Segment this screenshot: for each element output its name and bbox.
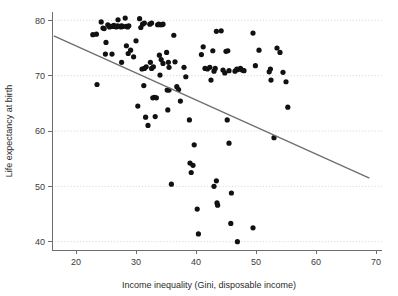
data-point bbox=[268, 77, 273, 82]
x-axis-title: Income inequality (Gini, disposable inco… bbox=[122, 280, 296, 290]
data-point bbox=[280, 70, 285, 75]
data-point bbox=[250, 30, 255, 35]
data-point bbox=[285, 105, 290, 110]
data-point bbox=[145, 123, 150, 128]
data-point bbox=[225, 48, 230, 53]
data-point bbox=[250, 225, 255, 230]
data-point bbox=[148, 60, 153, 65]
data-point bbox=[277, 50, 282, 55]
data-point bbox=[157, 73, 162, 78]
data-point bbox=[183, 74, 188, 79]
data-point bbox=[211, 184, 216, 189]
data-point bbox=[160, 61, 165, 66]
data-point bbox=[151, 64, 156, 69]
data-point bbox=[228, 221, 233, 226]
regression-line bbox=[54, 36, 370, 178]
data-point bbox=[109, 51, 114, 56]
y-tick-label-80: 80 bbox=[35, 16, 45, 26]
data-point bbox=[274, 45, 279, 50]
y-tick-label-50: 50 bbox=[35, 182, 45, 192]
data-point bbox=[144, 64, 149, 69]
y-tick-label-70: 70 bbox=[35, 71, 45, 81]
data-point bbox=[208, 77, 213, 82]
data-point bbox=[172, 59, 177, 64]
data-point bbox=[213, 66, 218, 71]
data-points bbox=[90, 15, 290, 244]
y-tick-label-60: 60 bbox=[35, 126, 45, 136]
data-point bbox=[123, 15, 128, 20]
data-point bbox=[154, 95, 159, 100]
y-axis-title: Life expectancy at birth bbox=[4, 85, 14, 178]
x-tick-label-70: 70 bbox=[371, 257, 381, 267]
data-point bbox=[189, 170, 194, 175]
data-point bbox=[149, 20, 154, 25]
data-point bbox=[141, 83, 146, 88]
data-point bbox=[103, 51, 108, 56]
data-point bbox=[235, 239, 240, 244]
data-point bbox=[153, 114, 158, 119]
data-point bbox=[192, 142, 197, 147]
data-point bbox=[119, 60, 124, 65]
data-point bbox=[115, 17, 120, 22]
data-point bbox=[142, 20, 147, 25]
data-point bbox=[157, 53, 162, 58]
data-point bbox=[241, 68, 246, 73]
data-point bbox=[195, 206, 200, 211]
scatter-chart: 203040506070 4050607080 Income inequalit… bbox=[0, 0, 398, 296]
data-point bbox=[171, 33, 176, 38]
data-point bbox=[207, 65, 212, 70]
data-point bbox=[229, 190, 234, 195]
data-point bbox=[160, 22, 165, 27]
y-tick-labels: 4050607080 bbox=[35, 16, 45, 247]
data-point bbox=[135, 103, 140, 108]
plot-area: 203040506070 4050607080 Income inequalit… bbox=[0, 0, 398, 296]
data-point bbox=[126, 23, 131, 28]
data-point bbox=[226, 141, 231, 146]
fit-line bbox=[54, 36, 370, 178]
data-point bbox=[94, 32, 99, 37]
y-tick-label-40: 40 bbox=[35, 237, 45, 247]
data-point bbox=[256, 48, 261, 53]
data-point bbox=[214, 178, 219, 183]
x-tick-labels: 203040506070 bbox=[71, 257, 381, 267]
data-point bbox=[103, 40, 108, 45]
data-point bbox=[210, 48, 215, 53]
data-point bbox=[137, 16, 142, 21]
data-point bbox=[199, 52, 204, 57]
data-point bbox=[131, 54, 136, 59]
data-point bbox=[219, 28, 224, 33]
data-point bbox=[99, 19, 104, 24]
data-point bbox=[166, 60, 171, 65]
gridlines bbox=[52, 20, 382, 241]
data-point bbox=[196, 231, 201, 236]
x-tick-label-20: 20 bbox=[71, 257, 81, 267]
data-point bbox=[214, 29, 219, 34]
data-point bbox=[268, 66, 273, 71]
x-tick-label-30: 30 bbox=[131, 257, 141, 267]
data-point bbox=[187, 117, 192, 122]
x-tick-label-60: 60 bbox=[311, 257, 321, 267]
x-tick-label-40: 40 bbox=[191, 257, 201, 267]
data-point bbox=[169, 182, 174, 187]
data-point bbox=[133, 38, 138, 43]
data-point bbox=[178, 99, 183, 104]
data-point bbox=[253, 63, 258, 68]
x-tick-label-50: 50 bbox=[251, 257, 261, 267]
data-point bbox=[283, 79, 288, 84]
data-point bbox=[143, 115, 148, 120]
data-point bbox=[165, 107, 170, 112]
data-point bbox=[94, 82, 99, 87]
data-point bbox=[201, 44, 206, 49]
data-point bbox=[128, 48, 133, 53]
data-point bbox=[166, 65, 171, 70]
data-point bbox=[225, 117, 230, 122]
data-point bbox=[181, 65, 186, 70]
data-point bbox=[102, 26, 107, 31]
data-point bbox=[215, 203, 220, 208]
data-point bbox=[226, 68, 231, 73]
data-point bbox=[190, 163, 195, 168]
data-point bbox=[164, 50, 169, 55]
data-point bbox=[124, 43, 129, 48]
